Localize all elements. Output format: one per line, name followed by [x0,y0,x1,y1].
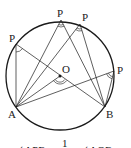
formula-left: ∠APB [15,144,46,148]
chord-p2-a [16,20,61,107]
central-arc-inner [55,79,65,82]
label-p3: P [82,11,88,23]
label-p1: P [9,32,15,44]
formula-right: ∠AOB [80,144,112,148]
label-p2: P [57,7,63,19]
angle-arc-p1 [16,49,23,52]
angle-arc-p2-inner [59,25,64,26]
inscribed-angle-diagram: O A B P P P P ∠APB 1 ∠AOB [0,0,131,148]
angle-arc-p3 [76,30,82,31]
angle-arc-p4-inner [108,73,112,77]
formula: ∠APB 1 ∠AOB [15,137,112,148]
radius-oa [16,76,60,107]
label-a: A [8,108,16,120]
label-o: O [62,63,70,75]
angle-arc-p2 [58,26,64,27]
formula-fraction-numerator: 1 [62,137,68,148]
label-b: B [106,108,113,120]
central-angle-mark [54,79,67,84]
angle-arc-p3-inner [77,28,81,29]
label-p4: P [117,64,123,76]
chord-p3-a [16,24,80,107]
